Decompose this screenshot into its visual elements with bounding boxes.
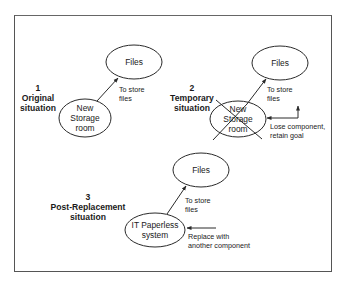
annotation-line: Replace with [188, 232, 250, 241]
component-label-line: New [70, 103, 99, 113]
edge-label-line: To store [267, 85, 293, 94]
diagram-shapes [0, 0, 346, 284]
edge-label-2: To store files [267, 85, 293, 104]
component-label-3: IT Paperless system [132, 220, 179, 240]
component-label-line: room [223, 124, 252, 134]
files-label-1: Files [125, 57, 143, 67]
replacement-diagram: 1 Original situation Files New Storage r… [0, 0, 346, 284]
edge-label-3: To store files [185, 196, 211, 215]
section-title-line: situation [170, 104, 214, 114]
annotation-line: another component [188, 241, 250, 250]
to-store-files-arrow-1 [97, 78, 118, 101]
section-2-title: 2 Temporary situation [170, 84, 214, 114]
component-label-line: Storage [223, 114, 252, 124]
lose-component-elbow-arrow [267, 106, 298, 118]
replace-component-annotation: Replace with another component [188, 232, 250, 251]
edge-label-1: To store files [119, 85, 145, 104]
component-label-line: New [223, 104, 252, 114]
component-label-line: system [132, 230, 179, 240]
component-label-2: New Storage room [223, 104, 252, 134]
edge-label-line: files [119, 94, 145, 103]
component-label-1: New Storage room [70, 103, 99, 133]
annotation-line: retain goal [270, 131, 325, 140]
section-3-title: 3 Post-Replacement situation [51, 193, 126, 223]
edge-label-line: To store [185, 196, 211, 205]
annotation-line: Lose component, [270, 122, 325, 131]
component-label-line: IT Paperless [132, 220, 179, 230]
files-label-3: Files [192, 165, 210, 175]
edge-label-line: To store [119, 85, 145, 94]
to-store-files-arrow-2 [247, 79, 266, 104]
files-label-2: Files [271, 58, 289, 68]
edge-label-line: files [267, 94, 293, 103]
section-title-line: situation [20, 104, 56, 114]
section-title-line: situation [51, 213, 126, 223]
to-store-files-arrow-3 [167, 186, 186, 214]
section-1-title: 1 Original situation [20, 84, 56, 114]
edge-label-line: files [185, 205, 211, 214]
lose-component-annotation: Lose component, retain goal [270, 122, 325, 141]
component-label-line: Storage [70, 113, 99, 123]
component-label-line: room [70, 123, 99, 133]
